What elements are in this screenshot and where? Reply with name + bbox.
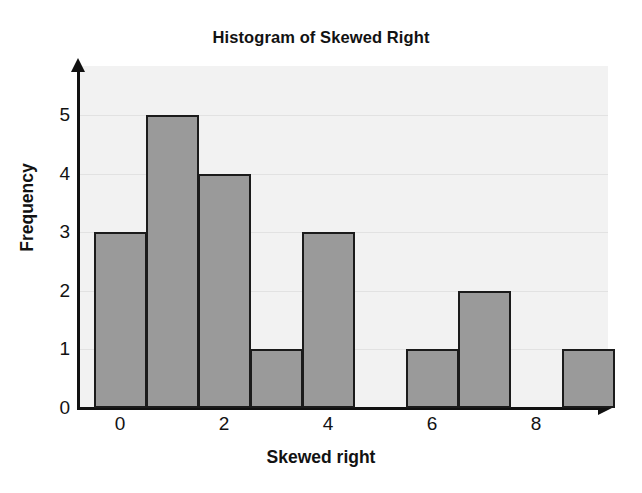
histogram-bar [562, 349, 615, 408]
y-axis-tick-label: 4 [40, 164, 70, 183]
y-axis-tick-label: 2 [40, 281, 70, 300]
y-axis-tick-label: 3 [40, 222, 70, 241]
y-axis-tick-labels: 012345 [36, 0, 70, 493]
x-axis-tick-label: 8 [516, 414, 556, 433]
histogram-bar [406, 349, 459, 408]
bars-layer [80, 66, 608, 408]
x-axis-tick-label: 0 [100, 414, 140, 433]
y-axis-tick-label: 0 [40, 398, 70, 417]
plot-area [80, 66, 608, 408]
histogram-bar [250, 349, 303, 408]
histogram-bar [146, 115, 199, 408]
x-axis-tick-label: 4 [308, 414, 348, 433]
y-axis-tick-label: 5 [40, 105, 70, 124]
x-axis-title: Skewed right [0, 447, 642, 468]
histogram-bar [94, 232, 147, 408]
chart-title: Histogram of Skewed Right [0, 28, 642, 47]
x-axis-tick-label: 2 [204, 414, 244, 433]
histogram-bar [198, 174, 251, 408]
y-axis-tick-label: 1 [40, 339, 70, 358]
histogram-bar [302, 232, 355, 408]
y-axis-title: Frequency [17, 138, 38, 278]
histogram-figure: Histogram of Skewed Right 012345 02468 F… [0, 0, 642, 493]
y-axis-line [77, 70, 80, 410]
x-axis-tick-label: 6 [412, 414, 452, 433]
histogram-bar [458, 291, 511, 408]
y-axis-arrow-icon [71, 58, 85, 72]
